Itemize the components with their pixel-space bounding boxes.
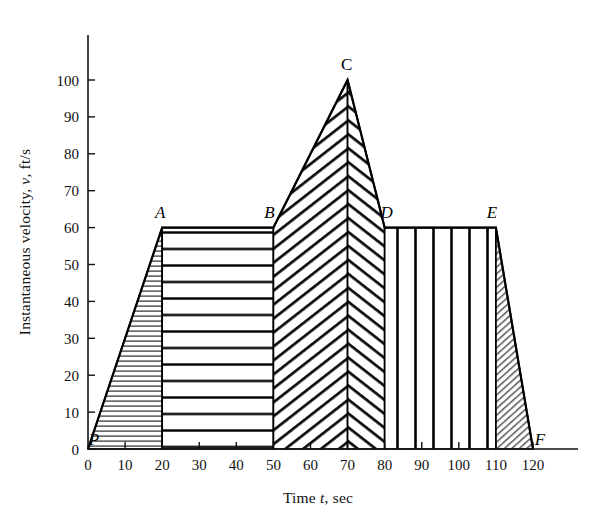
- velocity-time-chart: 0102030405060708090100 01020304050607080…: [0, 0, 609, 520]
- x-tick-label: 90: [414, 457, 429, 473]
- x-tick-label: 80: [377, 457, 392, 473]
- point-label-d: D: [380, 203, 394, 222]
- y-tick-label: 60: [64, 220, 79, 236]
- y-tick-label: 80: [64, 146, 79, 162]
- x-tick-label: 0: [84, 457, 92, 473]
- x-tick-label: 10: [118, 457, 133, 473]
- y-tick-label: 90: [64, 109, 79, 125]
- x-axis-title-lead: Time: [283, 489, 320, 506]
- y-tick-label: 20: [64, 368, 79, 384]
- y-axis-title-lead: Instantaneous velocity,: [16, 185, 33, 336]
- point-label-p: P: [88, 430, 99, 449]
- y-tick-label: 100: [57, 73, 80, 89]
- y-tick-label: 0: [72, 442, 80, 458]
- point-label-e: E: [486, 203, 498, 222]
- y-tick-label: 10: [64, 405, 79, 421]
- x-axis-title-trail: , sec: [325, 489, 354, 506]
- y-axis-title-trail: , ft/s: [16, 149, 33, 178]
- svg-text:Instantaneous velocity, v, ft/: Instantaneous velocity, v, ft/s: [16, 149, 33, 335]
- region-a-b: [162, 228, 273, 449]
- x-tick-label: 30: [192, 457, 207, 473]
- region-d-e: [385, 228, 496, 449]
- x-axis-title: Time t, sec: [283, 489, 353, 506]
- x-tick-label: 100: [448, 457, 471, 473]
- x-tick-label: 70: [340, 457, 355, 473]
- x-tick-label: 20: [155, 457, 170, 473]
- y-tick-label: 70: [64, 183, 79, 199]
- y-tick-label: 50: [64, 257, 79, 273]
- y-tick-label: 40: [64, 294, 79, 310]
- x-tick-label: 40: [229, 457, 244, 473]
- y-axis-title-symbol: v: [16, 178, 33, 185]
- x-tick-label: 110: [485, 457, 507, 473]
- point-label-f: F: [534, 430, 546, 449]
- x-tick-label: 50: [266, 457, 281, 473]
- y-tick-label: 30: [64, 331, 79, 347]
- point-label-b: B: [264, 203, 275, 222]
- x-tick-label: 60: [303, 457, 318, 473]
- x-tick-label: 120: [522, 457, 545, 473]
- y-axis-title: Instantaneous velocity, v, ft/s: [16, 149, 33, 335]
- point-label-a: A: [154, 203, 166, 222]
- svg-text:Time t, sec: Time t, sec: [283, 489, 353, 506]
- point-label-c: C: [341, 55, 352, 74]
